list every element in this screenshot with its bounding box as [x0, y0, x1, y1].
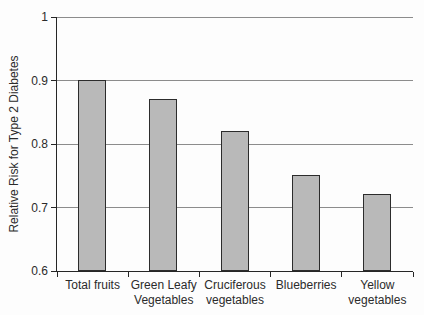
bar — [363, 194, 391, 271]
x-axis-tick — [413, 272, 414, 277]
y-tick-label: 1 — [8, 9, 48, 25]
y-axis-tick — [51, 271, 56, 272]
y-axis-tick — [51, 207, 56, 208]
x-axis-line — [56, 271, 413, 272]
x-category-label-line: Total fruits — [57, 278, 128, 293]
x-category-label-line: vegetables — [342, 293, 413, 308]
bar-chart: Relative Risk for Type 2 Diabetes 10.90.… — [0, 0, 424, 315]
x-category-label-line: Blueberries — [271, 278, 342, 293]
bar — [292, 175, 320, 271]
bar — [149, 99, 177, 271]
y-axis-tick — [51, 17, 56, 18]
y-axis-line — [56, 17, 57, 272]
x-category-label-line: vegetables — [199, 293, 270, 308]
gridline — [57, 80, 413, 81]
x-category-label-line: Vegetables — [128, 293, 199, 308]
x-category-label: Yellowvegetables — [342, 278, 413, 308]
x-axis-tick — [270, 272, 271, 277]
x-axis-tick — [199, 272, 200, 277]
x-category-label-line: Green Leafy — [128, 278, 199, 293]
y-tick-label: 0.6 — [8, 263, 48, 279]
bar — [221, 131, 249, 271]
x-axis-tick — [341, 272, 342, 277]
y-tick-label: 0.8 — [8, 136, 48, 152]
x-category-label: Total fruits — [57, 278, 128, 293]
gridline — [57, 17, 413, 18]
x-axis-tick — [128, 272, 129, 277]
y-axis-tick — [51, 144, 56, 145]
bar — [78, 80, 106, 271]
x-axis-tick — [57, 272, 58, 277]
x-category-label: Cruciferousvegetables — [199, 278, 270, 308]
y-axis-tick — [51, 80, 56, 81]
x-category-label: Blueberries — [271, 278, 342, 293]
plot-area: 10.90.80.70.6Total fruitsGreen LeafyVege… — [57, 17, 413, 271]
y-tick-label: 0.9 — [8, 73, 48, 89]
x-category-label-line: Cruciferous — [199, 278, 270, 293]
y-tick-label: 0.7 — [8, 200, 48, 216]
x-category-label: Green LeafyVegetables — [128, 278, 199, 308]
x-category-label-line: Yellow — [342, 278, 413, 293]
